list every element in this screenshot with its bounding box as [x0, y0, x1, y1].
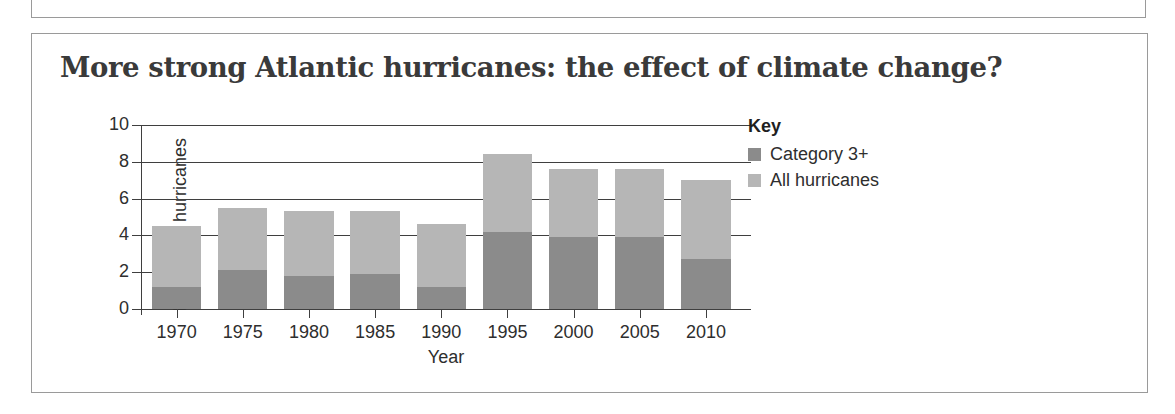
bar-group-1970[interactable]	[152, 125, 201, 309]
x-tick-label-1980: 1980	[274, 322, 344, 343]
y-tick-label-8: 8	[89, 151, 129, 172]
y-tick-0	[132, 309, 143, 310]
bar-group-1990[interactable]	[417, 125, 466, 309]
x-tick-label-2000: 2000	[539, 322, 609, 343]
bar-category-3-plus-1995[interactable]	[483, 232, 532, 309]
x-tick-label-1990: 1990	[406, 322, 476, 343]
y-tick-label-0: 0	[89, 298, 129, 319]
figure-frame: More strong Atlantic hurricanes: the eff…	[31, 33, 1148, 393]
x-tick-2000	[574, 309, 575, 318]
legend-label: Category 3+	[770, 144, 869, 165]
x-tick-2005	[640, 309, 641, 318]
x-tick-1970	[177, 309, 178, 318]
bar-group-1995[interactable]	[483, 125, 532, 309]
bar-group-2000[interactable]	[549, 125, 598, 309]
x-tick-label-1985: 1985	[340, 322, 410, 343]
bar-group-1975[interactable]	[218, 125, 267, 309]
x-axis-line	[141, 309, 751, 310]
y-tick-2	[132, 272, 143, 273]
x-tick-1975	[243, 309, 244, 318]
bar-group-1980[interactable]	[284, 125, 333, 309]
bar-category-3-plus-2010[interactable]	[681, 259, 730, 309]
y-tick-label-4: 4	[89, 224, 129, 245]
legend-swatch-icon	[748, 174, 761, 187]
x-tick-1990	[441, 309, 442, 318]
x-tick-label-2005: 2005	[605, 322, 675, 343]
legend-swatch-icon	[748, 148, 761, 161]
y-axis-line	[141, 125, 142, 315]
bar-group-2005[interactable]	[615, 125, 664, 309]
x-tick-label-1970: 1970	[142, 322, 212, 343]
legend-title: Key	[748, 116, 998, 137]
bar-category-3-plus-1970[interactable]	[152, 287, 201, 309]
legend: Key Category 3+All hurricanes	[748, 116, 998, 196]
y-tick-6	[132, 199, 143, 200]
bar-category-3-plus-2005[interactable]	[615, 237, 664, 309]
bar-group-2010[interactable]	[681, 125, 730, 309]
y-tick-10	[132, 125, 143, 126]
bar-category-3-plus-1975[interactable]	[218, 270, 267, 309]
x-tick-1995	[507, 309, 508, 318]
plot-area: Number of hurricanes Year 02468101970197…	[141, 119, 751, 319]
x-axis-title: Year	[141, 347, 751, 368]
bar-category-3-plus-1985[interactable]	[350, 274, 399, 309]
y-tick-4	[132, 235, 143, 236]
bar-category-3-plus-1980[interactable]	[284, 276, 333, 309]
legend-entries: Category 3+All hurricanes	[748, 144, 998, 191]
bar-category-3-plus-1990[interactable]	[417, 287, 466, 309]
y-tick-label-10: 10	[89, 114, 129, 135]
y-tick-8	[132, 162, 143, 163]
top-partial-box	[31, 0, 1146, 18]
x-tick-1985	[375, 309, 376, 318]
bar-category-3-plus-2000[interactable]	[549, 237, 598, 309]
legend-label: All hurricanes	[770, 170, 879, 191]
x-tick-label-1995: 1995	[472, 322, 542, 343]
legend-item-1[interactable]: Category 3+	[748, 144, 998, 165]
legend-item-2[interactable]: All hurricanes	[748, 170, 998, 191]
bar-group-1985[interactable]	[350, 125, 399, 309]
page-title: More strong Atlantic hurricanes: the eff…	[60, 51, 1002, 83]
y-tick-label-2: 2	[89, 261, 129, 282]
y-tick-label-6: 6	[89, 188, 129, 209]
x-tick-1980	[309, 309, 310, 318]
x-tick-label-2010: 2010	[671, 322, 741, 343]
x-tick-2010	[706, 309, 707, 318]
x-tick-label-1975: 1975	[208, 322, 278, 343]
